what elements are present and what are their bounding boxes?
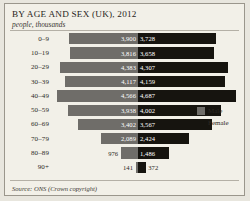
bar-female[interactable]: 2,424 [138, 133, 189, 144]
bar-male[interactable]: 3,402 [78, 119, 138, 130]
bar-female[interactable]: 372 [138, 162, 146, 173]
bar-value-female: 3,567 [140, 121, 155, 128]
row-bars: 4,5664,687 [53, 89, 244, 103]
bar-female[interactable]: 3,658 [138, 47, 214, 58]
bar-value-female: 372 [148, 164, 158, 171]
bar-male[interactable]: 976 [121, 147, 138, 158]
bar-male[interactable]: 3,938 [68, 105, 138, 116]
bar-value-female: 2,424 [140, 135, 155, 142]
source-prefix: Source: [12, 185, 32, 192]
footer-divider [10, 180, 239, 181]
legend-item-male: Male [197, 107, 229, 115]
bar-male[interactable]: 4,383 [60, 62, 138, 73]
bar-value-male: 3,816 [121, 50, 136, 57]
bar-female[interactable]: 4,687 [138, 90, 236, 101]
bar-value-female: 3,728 [140, 35, 155, 42]
bar-male[interactable]: 4,117 [65, 76, 138, 87]
legend-label-male: Male [208, 107, 222, 115]
row-bars: 9761,486 [53, 146, 244, 160]
chart-row: 80–899761,486 [5, 146, 244, 160]
chart-legend: Male Female [197, 107, 229, 130]
category-label: 50–59 [5, 106, 49, 114]
row-bars: 3,8163,658 [53, 46, 244, 60]
row-bars: 4,3834,307 [53, 61, 244, 75]
category-label: 70–79 [5, 135, 49, 143]
chart-row: 30–394,1174,159 [5, 75, 244, 89]
chart-row: 40–494,5664,687 [5, 89, 244, 103]
legend-item-female: Female [197, 119, 229, 127]
bar-value-female: 4,307 [140, 64, 155, 71]
row-bars: 3,9003,728 [53, 32, 244, 46]
bar-value-male: 4,566 [121, 92, 136, 99]
chart-row: 20–294,3834,307 [5, 61, 244, 75]
chart-row: 10–193,8163,658 [5, 46, 244, 60]
bar-value-female: 3,658 [140, 50, 155, 57]
bar-value-male: 4,383 [121, 64, 136, 71]
category-label: 20–29 [5, 63, 49, 71]
bar-value-male: 3,900 [121, 35, 136, 42]
title-divider [10, 30, 239, 31]
chart-row: 0–93,9003,728 [5, 32, 244, 46]
bar-value-male: 3,938 [121, 107, 136, 114]
bar-value-male: 3,402 [121, 121, 136, 128]
category-label: 40–49 [5, 92, 49, 100]
category-label: 0–9 [5, 35, 49, 43]
category-label: 90+ [5, 163, 49, 171]
bar-female[interactable]: 4,307 [138, 62, 228, 73]
chart-card: BY AGE AND SEX (UK), 2012 people, thousa… [4, 3, 245, 196]
chart-header: BY AGE AND SEX (UK), 2012 people, thousa… [5, 4, 244, 29]
row-bars: 2,0892,424 [53, 132, 244, 146]
bar-value-female: 1,486 [140, 150, 155, 157]
category-label: 80–89 [5, 149, 49, 157]
bar-male[interactable]: 3,816 [70, 47, 138, 58]
chart-row: 90+141372 [5, 161, 244, 175]
legend-swatch-male-icon [197, 107, 205, 115]
bar-female[interactable]: 3,728 [138, 33, 216, 44]
legend-swatch-female-icon [197, 119, 205, 127]
chart-subtitle: people, thousands [12, 20, 244, 29]
bar-value-female: 4,687 [140, 92, 155, 99]
chart-plot-area: 0–93,9003,72810–193,8163,65820–294,3834,… [5, 32, 244, 180]
row-bars: 4,1174,159 [53, 75, 244, 89]
bar-male[interactable]: 3,900 [69, 33, 138, 44]
bar-value-male: 141 [123, 164, 133, 171]
bar-value-male: 2,089 [121, 135, 136, 142]
row-bars: 141372 [53, 161, 244, 175]
bar-value-female: 4,002 [140, 107, 155, 114]
category-label: 10–19 [5, 49, 49, 57]
source-note: Source: ONS (Crown copyright) [12, 185, 97, 192]
bar-male[interactable]: 4,566 [57, 90, 138, 101]
bar-male[interactable]: 2,089 [101, 133, 138, 144]
source-text: ONS (Crown copyright) [34, 185, 97, 192]
category-label: 60–69 [5, 120, 49, 128]
bar-value-female: 4,159 [140, 78, 155, 85]
category-label: 30–39 [5, 78, 49, 86]
legend-label-female: Female [208, 119, 229, 127]
bar-value-male: 4,117 [121, 78, 136, 85]
bar-female[interactable]: 4,159 [138, 76, 225, 87]
chart-row: 70–792,0892,424 [5, 132, 244, 146]
bar-female[interactable]: 1,486 [138, 147, 169, 158]
page-title: BY AGE AND SEX (UK), 2012 [12, 9, 244, 19]
bar-value-male: 976 [108, 150, 118, 157]
